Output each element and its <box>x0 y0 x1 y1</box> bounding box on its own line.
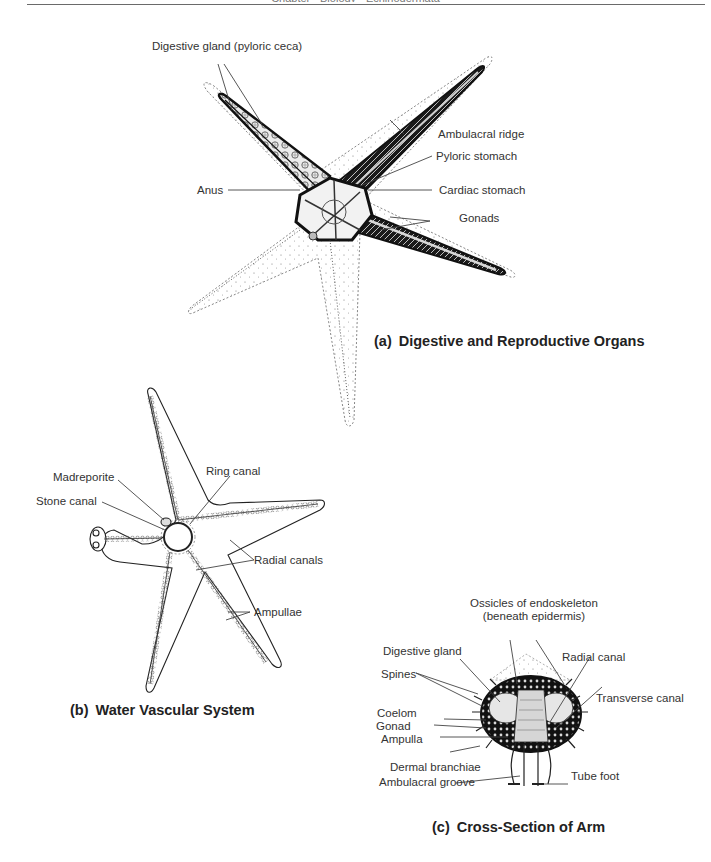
label-gonads: Gonads <box>459 212 499 225</box>
caption-panel-a-prefix: (a) <box>374 333 392 349</box>
diagram-artwork <box>0 0 711 862</box>
label-ambulacral-ridge: Ambulacral ridge <box>438 128 524 141</box>
label-tube-foot: Tube foot <box>571 770 619 783</box>
label-ossicles-line2: (beneath epidermis) <box>444 610 624 623</box>
caption-panel-c: (c)Cross-Section of Arm <box>432 819 605 835</box>
label-radial-canals: Radial canals <box>254 554 323 567</box>
caption-panel-b-title: Water Vascular System <box>96 702 255 718</box>
label-ampullae: Ampullae <box>254 606 302 619</box>
panel-c-cross-section-drawing <box>472 654 588 786</box>
label-ossicles-line1: Ossicles of endoskeleton <box>444 597 624 610</box>
label-digestive-gland-pyloric-ceca: Digestive gland (pyloric ceca) <box>152 40 302 53</box>
caption-panel-b: (b)Water Vascular System <box>70 702 255 718</box>
label-radial-canal: Radial canal <box>562 651 625 664</box>
caption-panel-c-prefix: (c) <box>432 819 450 835</box>
label-transverse-canal: Transverse canal <box>596 692 684 705</box>
label-stone-canal: Stone canal <box>36 495 97 508</box>
caption-panel-c-title: Cross-Section of Arm <box>457 819 606 835</box>
label-pyloric-stomach: Pyloric stomach <box>436 150 517 163</box>
label-anus: Anus <box>197 184 223 197</box>
panel-a-starfish-drawing <box>188 56 515 426</box>
label-ring-canal: Ring canal <box>206 465 260 478</box>
caption-panel-b-prefix: (b) <box>70 702 89 718</box>
label-cardiac-stomach: Cardiac stomach <box>439 184 525 197</box>
label-dermal-branchiae: Dermal branchiae <box>390 761 481 774</box>
label-ampulla: Ampulla <box>381 733 423 746</box>
label-digestive-gland: Digestive gland <box>383 645 462 658</box>
label-spines: Spines <box>381 668 416 681</box>
label-coelom: Coelom <box>377 707 417 720</box>
panel-b-starfish-drawing <box>90 388 325 692</box>
label-madreporite: Madreporite <box>53 471 114 484</box>
label-ossicles-of-endoskeleton: Ossicles of endoskeleton (beneath epider… <box>444 597 624 623</box>
label-ambulacral-groove: Ambulacral groove <box>379 776 475 789</box>
label-gonad: Gonad <box>376 720 411 733</box>
caption-panel-a: (a)Digestive and Reproductive Organs <box>374 333 645 349</box>
caption-panel-a-title: Digestive and Reproductive Organs <box>399 333 645 349</box>
